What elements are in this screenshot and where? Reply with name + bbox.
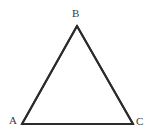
vertex-label-b: B bbox=[72, 8, 80, 19]
figure-background bbox=[0, 0, 154, 138]
triangle-drawing bbox=[0, 0, 154, 138]
vertex-label-a: A bbox=[9, 115, 17, 126]
geometry-figure: B A C bbox=[0, 0, 154, 138]
vertex-label-c: C bbox=[136, 116, 144, 127]
